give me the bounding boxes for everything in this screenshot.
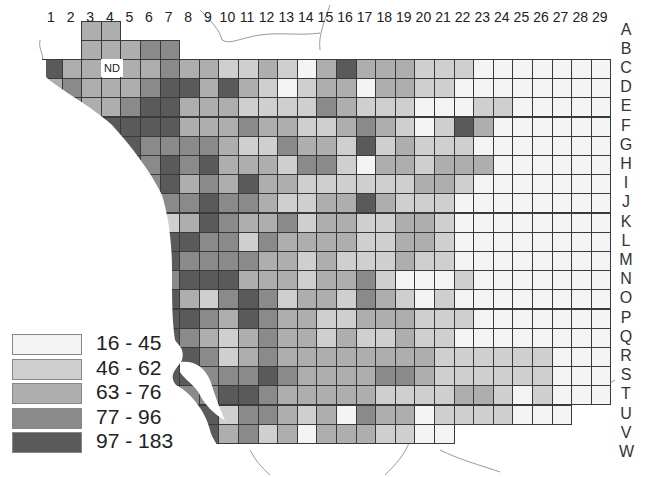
grid-cell-S14 bbox=[297, 366, 318, 386]
grid-cell-L19 bbox=[395, 232, 416, 252]
grid-cell-T13 bbox=[277, 385, 298, 405]
grid-cell-O18 bbox=[375, 289, 396, 309]
grid-cell-K8 bbox=[179, 213, 200, 233]
grid-cell-D19 bbox=[395, 78, 416, 98]
grid-cell-M25 bbox=[512, 251, 533, 271]
grid-cell-G17 bbox=[356, 136, 377, 156]
grid-cell-K25 bbox=[512, 213, 533, 233]
grid-cell-G27 bbox=[552, 136, 573, 156]
grid-cell-D12 bbox=[258, 78, 279, 98]
grid-cell-U22 bbox=[454, 405, 475, 425]
row-label: W bbox=[619, 443, 633, 461]
grid-cell-L13 bbox=[277, 232, 298, 252]
grid-cell-P13 bbox=[277, 309, 298, 329]
grid-cell-D4 bbox=[101, 78, 122, 98]
grid-cell-J7 bbox=[160, 193, 181, 213]
grid-cell-C7 bbox=[160, 59, 181, 79]
grid-cell-I24 bbox=[493, 174, 514, 194]
grid-cell-L20 bbox=[414, 232, 435, 252]
grid-cell-H17 bbox=[356, 155, 377, 175]
grid-cell-G26 bbox=[532, 136, 553, 156]
grid-cell-M14 bbox=[297, 251, 318, 271]
grid-cell-I5 bbox=[120, 174, 141, 194]
grid-cell-Q14 bbox=[297, 328, 318, 348]
column-label: 12 bbox=[257, 9, 277, 25]
grid-cell-K23 bbox=[473, 213, 494, 233]
no-data-label: ND bbox=[101, 59, 123, 77]
grid-cell-D23 bbox=[473, 78, 494, 98]
grid-cell-Q28 bbox=[571, 328, 592, 348]
grid-cell-P24 bbox=[493, 309, 514, 329]
grid-cell-O25 bbox=[512, 289, 533, 309]
grid-cell-H28 bbox=[571, 155, 592, 175]
column-label: 28 bbox=[570, 9, 590, 25]
grid-cell-C5 bbox=[120, 59, 141, 79]
grid-cell-P21 bbox=[434, 309, 455, 329]
grid-cell-M12 bbox=[258, 251, 279, 271]
grid-cell-R21 bbox=[434, 347, 455, 367]
grid-cell-E9 bbox=[199, 97, 220, 117]
grid-cell-S8 bbox=[179, 366, 200, 386]
grid-cell-M8 bbox=[179, 251, 200, 271]
grid-cell-V10 bbox=[218, 424, 239, 444]
grid-cell-N8 bbox=[179, 270, 200, 290]
grid-cell-V13 bbox=[277, 424, 298, 444]
grid-cell-V17 bbox=[356, 424, 377, 444]
grid-cell-M19 bbox=[395, 251, 416, 271]
grid-cell-N16 bbox=[336, 270, 357, 290]
column-label: 23 bbox=[472, 9, 492, 25]
grid-cell-T22 bbox=[454, 385, 475, 405]
grid-cell-R12 bbox=[258, 347, 279, 367]
grid-cell-H14 bbox=[297, 155, 318, 175]
grid-cell-G20 bbox=[414, 136, 435, 156]
grid-cell-H5 bbox=[120, 155, 141, 175]
column-label: 7 bbox=[159, 9, 179, 25]
row-label: C bbox=[619, 59, 633, 77]
grid-cell-N20 bbox=[414, 270, 435, 290]
grid-cell-P29 bbox=[591, 309, 612, 329]
row-label: L bbox=[619, 232, 633, 250]
column-label: 8 bbox=[178, 9, 198, 25]
grid-cell-F10 bbox=[218, 117, 239, 137]
grid-cell-K9 bbox=[199, 213, 220, 233]
grid-cell-E19 bbox=[395, 97, 416, 117]
grid-cell-F28 bbox=[571, 117, 592, 137]
grid-cell-E15 bbox=[316, 97, 337, 117]
grid-cell-K24 bbox=[493, 213, 514, 233]
grid-cell-E11 bbox=[238, 97, 259, 117]
grid-cell-J22 bbox=[454, 193, 475, 213]
grid-cell-M23 bbox=[473, 251, 494, 271]
legend-label: 63 - 76 bbox=[96, 380, 161, 404]
grid-cell-F29 bbox=[591, 117, 612, 137]
grid-cell-R23 bbox=[473, 347, 494, 367]
grid-cell-I15 bbox=[316, 174, 337, 194]
grid-cell-T20 bbox=[414, 385, 435, 405]
grid-cell-F27 bbox=[552, 117, 573, 137]
grid-cell-I19 bbox=[395, 174, 416, 194]
grid-cell-V16 bbox=[336, 424, 357, 444]
grid-cell-Q10 bbox=[218, 328, 239, 348]
grid-cell-G8 bbox=[179, 136, 200, 156]
grid-cell-J14 bbox=[297, 193, 318, 213]
grid-cell-Q25 bbox=[512, 328, 533, 348]
grid-cell-D2 bbox=[62, 78, 83, 98]
grid-cell-C6 bbox=[140, 59, 161, 79]
grid-cell-E10 bbox=[218, 97, 239, 117]
grid-cell-T26 bbox=[532, 385, 553, 405]
row-label: G bbox=[619, 136, 633, 154]
column-label: 3 bbox=[80, 9, 100, 25]
grid-cell-P27 bbox=[552, 309, 573, 329]
grid-cell-E25 bbox=[512, 97, 533, 117]
grid-cell-M18 bbox=[375, 251, 396, 271]
grid-cell-C12 bbox=[258, 59, 279, 79]
grid-cell-I21 bbox=[434, 174, 455, 194]
grid-cell-M11 bbox=[238, 251, 259, 271]
grid-cell-Q26 bbox=[532, 328, 553, 348]
grid-cell-K29 bbox=[591, 213, 612, 233]
grid-cell-K18 bbox=[375, 213, 396, 233]
column-label: 18 bbox=[374, 9, 394, 25]
grid-cell-C17 bbox=[356, 59, 377, 79]
grid-cell-J29 bbox=[591, 193, 612, 213]
grid-cell-E21 bbox=[434, 97, 455, 117]
grid-cell-K27 bbox=[552, 213, 573, 233]
